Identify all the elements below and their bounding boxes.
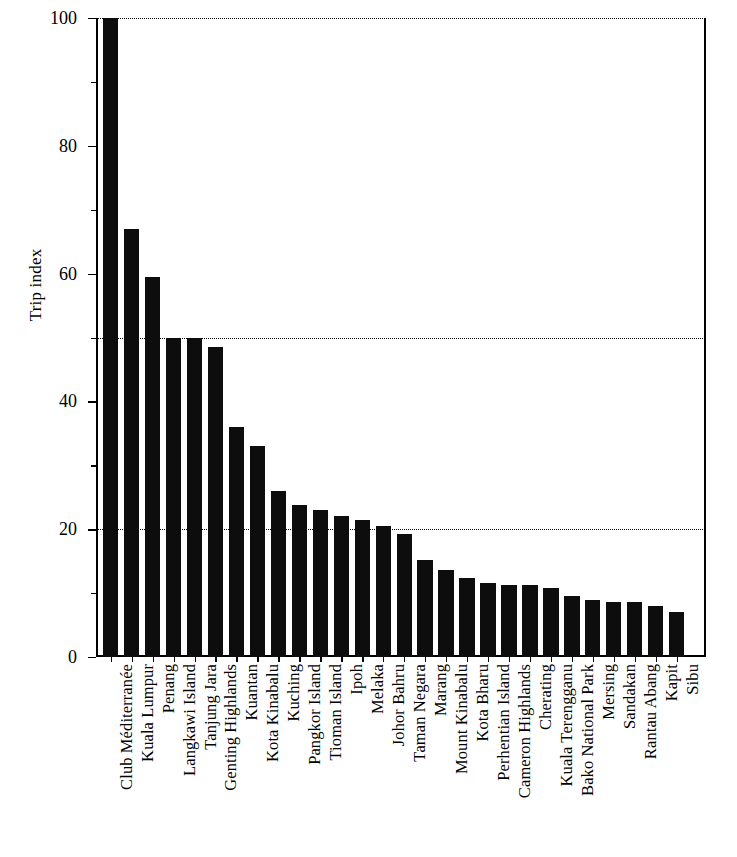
bar [313, 510, 328, 657]
x-tick [383, 657, 384, 662]
x-axis-label: Langkawi Island [180, 664, 200, 776]
x-axis-label: Genting Highlands [221, 664, 241, 791]
x-axis-label: Ipoh [347, 664, 367, 695]
x-tick [195, 657, 196, 662]
x-tick [551, 657, 552, 662]
x-tick [320, 657, 321, 662]
x-axis-label: Kota Bharu [473, 664, 493, 742]
x-tick [572, 657, 573, 662]
x-axis-label: Bako National Park [578, 664, 598, 796]
y-tick-label-60: 60 [59, 263, 77, 284]
x-tick [174, 657, 175, 662]
x-tick [362, 657, 363, 662]
bar [543, 588, 558, 657]
bar [648, 606, 663, 657]
x-axis-label: Kota Kinabalu [263, 664, 283, 762]
y-tick-40: 40 [88, 401, 96, 402]
x-axis-label: Taman Negara [410, 664, 430, 762]
y-tick-label-80: 80 [59, 135, 77, 156]
x-tick [153, 657, 154, 662]
x-axis-label: Johor Bahru [389, 664, 409, 746]
bar [250, 446, 265, 657]
x-tick [488, 657, 489, 662]
x-tick [635, 657, 636, 662]
bar [145, 277, 160, 657]
y-minor-tick-30 [91, 465, 96, 466]
y-tick-label-100: 100 [50, 8, 77, 29]
x-tick [467, 657, 468, 662]
x-tick [278, 657, 279, 662]
x-tick [404, 657, 405, 662]
bar [103, 18, 118, 657]
y-minor-tick-50 [91, 338, 96, 339]
x-axis-label: Mersing [599, 664, 619, 720]
bar [585, 600, 600, 658]
bar [417, 560, 432, 657]
x-tick [111, 657, 112, 662]
x-axis-label: Pangkor Island [305, 664, 325, 765]
y-tick-60: 60 [88, 274, 96, 275]
bar [627, 602, 642, 657]
x-tick [530, 657, 531, 662]
bar [166, 338, 181, 658]
y-minor-tick-90 [91, 82, 96, 83]
x-tick [677, 657, 678, 662]
x-axis-labels: Club MéditerranéeKuala LumpurPenangLangk… [96, 664, 706, 844]
y-tick-20: 20 [88, 529, 96, 530]
y-tick-100: 100 [88, 18, 96, 19]
x-axis-label: Kuala Lumpur [138, 664, 158, 762]
x-axis-label: Melaka [368, 664, 388, 714]
bar [397, 534, 412, 657]
bar [564, 596, 579, 657]
y-tick-label-40: 40 [59, 391, 77, 412]
y-axis-title: Trip index [26, 215, 46, 355]
x-tick [257, 657, 258, 662]
y-minor-tick-70 [91, 210, 96, 211]
y-tick-0: 0 [88, 657, 96, 658]
x-axis-label: Marang [431, 664, 451, 716]
x-axis-label: Mount Kinabalu [452, 664, 472, 774]
y-tick-label-0: 0 [68, 647, 77, 668]
bar [208, 347, 223, 657]
x-tick [215, 657, 216, 662]
bar [501, 585, 516, 657]
x-axis-label: Cherating [536, 664, 556, 730]
plot-area: 020406080100 [96, 18, 706, 657]
x-axis-label: Kuantan [242, 664, 262, 721]
x-tick [132, 657, 133, 662]
y-tick-label-20: 20 [59, 519, 77, 540]
bar [271, 491, 286, 657]
x-tick [236, 657, 237, 662]
bar [459, 578, 474, 657]
x-tick [446, 657, 447, 662]
x-axis-label: Tioman Island [326, 664, 346, 761]
y-minor-tick-10 [91, 593, 96, 594]
bar [376, 526, 391, 657]
bar [187, 338, 202, 658]
bar [438, 570, 453, 657]
y-tick-80: 80 [88, 146, 96, 147]
x-tick [341, 657, 342, 662]
x-axis-label: Kuala Terengganu [557, 664, 577, 786]
bar [606, 602, 621, 657]
bar [355, 520, 370, 657]
x-axis-label: Rantau Abang [641, 664, 661, 759]
bar [480, 583, 495, 657]
x-axis-label: Cameron Highlands [515, 664, 535, 798]
bar [334, 516, 349, 657]
x-axis-label: Sibu [683, 664, 703, 695]
bar [669, 612, 684, 657]
x-tick [593, 657, 594, 662]
bar [229, 427, 244, 657]
x-tick [614, 657, 615, 662]
x-axis-label: Tanjung Jara [201, 664, 221, 750]
x-tick [656, 657, 657, 662]
gridline-100 [96, 18, 705, 19]
x-axis-label: Club Méditerranée [117, 664, 137, 790]
x-axis-label: Penang [159, 664, 179, 713]
bar [124, 229, 139, 657]
x-axis-label: Kapit [662, 664, 682, 701]
x-axis-label: Sandakan [620, 664, 640, 729]
x-tick [299, 657, 300, 662]
bar [292, 505, 307, 657]
